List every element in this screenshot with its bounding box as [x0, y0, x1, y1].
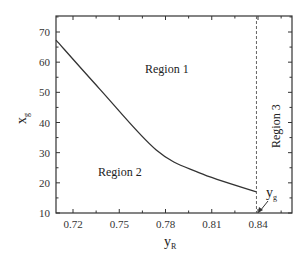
y-tick-label: 20 [39, 177, 51, 189]
annotations: Region 1Region 2Region 3ygyRxg [14, 62, 283, 251]
data-curve [56, 16, 256, 213]
region-1-label: Region 1 [145, 62, 189, 76]
x-tick-label: 0.78 [156, 218, 176, 230]
y-tick-label: 10 [39, 207, 51, 219]
y-tick-label: 60 [39, 56, 51, 68]
y-tick-label: 70 [39, 26, 51, 38]
x-tick-label: 0.75 [110, 218, 130, 230]
x-axis-title: yR [164, 234, 177, 251]
region-2-label: Region 2 [98, 165, 142, 179]
axis-ticks: 0.720.750.780.810.8410203040506070 [39, 16, 292, 230]
x-tick-label: 0.81 [202, 218, 221, 230]
x-tick-label: 0.84 [248, 218, 268, 230]
yg-annotation-label: yg [266, 185, 277, 202]
x-tick-label: 0.72 [63, 218, 82, 230]
y-tick-label: 50 [39, 86, 51, 98]
y-axis-title: xg [14, 113, 31, 124]
y-tick-label: 30 [39, 147, 51, 159]
chart: 0.720.750.780.810.8410203040506070 Regio… [0, 0, 308, 265]
y-tick-label: 40 [39, 117, 51, 129]
region-3-label: Region 3 [269, 104, 283, 148]
